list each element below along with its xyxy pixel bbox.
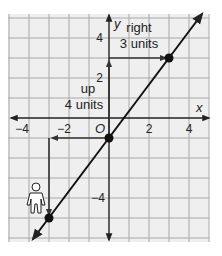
right-label-line1: right — [126, 20, 152, 35]
x-axis-label: x — [195, 100, 203, 115]
origin-label: O — [95, 121, 105, 136]
y-tick-4: 4 — [96, 31, 103, 45]
coordinate-graph: x y O −4 −2 2 4 4 2 −4 up 4 units right … — [0, 0, 222, 256]
y-tick-neg4: −4 — [91, 191, 105, 205]
x-tick-2: 2 — [146, 122, 153, 136]
y-tick-2: 2 — [96, 71, 103, 85]
x-tick-neg2: −2 — [57, 122, 71, 136]
point-3-3 — [165, 54, 174, 63]
x-tick-neg4: −4 — [15, 122, 29, 136]
x-tick-4: 4 — [186, 122, 193, 136]
point-0-neg1 — [105, 134, 114, 143]
right-label-line2: 3 units — [120, 36, 159, 51]
up-label-line2: 4 units — [65, 97, 104, 112]
point-neg3-neg5 — [45, 214, 54, 223]
up-label-line1: up — [81, 81, 95, 96]
